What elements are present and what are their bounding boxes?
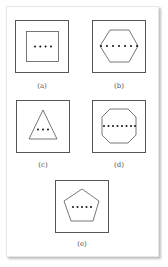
label-c: (c) — [16, 161, 70, 169]
label-d: (d) — [92, 161, 146, 169]
label-b: (b) — [92, 82, 146, 90]
label-e: (e) — [55, 240, 109, 248]
figure-c-triangle — [16, 100, 71, 153]
label-a: (a) — [15, 82, 69, 90]
figure-d-octagon — [92, 100, 147, 153]
figure-e-pentagon — [55, 180, 110, 233]
figure-a-square — [15, 20, 70, 73]
figure-b-hexagon — [92, 20, 147, 73]
